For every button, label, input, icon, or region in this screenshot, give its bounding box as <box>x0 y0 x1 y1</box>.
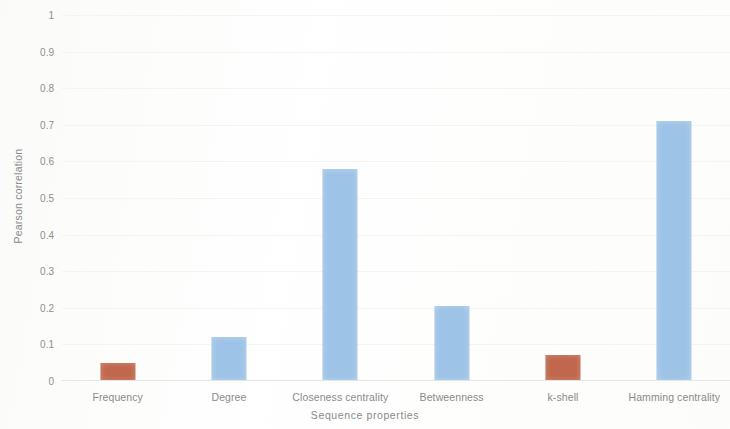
bar[interactable] <box>211 337 246 381</box>
y-axis-tick-label: 0.2 <box>40 302 54 313</box>
x-axis-tick-label: Closeness centrality <box>292 391 388 403</box>
y-axis-tick-label: 0.8 <box>40 83 54 94</box>
y-axis-tick-label: 0 <box>48 376 54 387</box>
y-axis-title: Pearson correlation <box>12 126 24 266</box>
x-axis-tick-label: k-shell <box>547 391 578 403</box>
bar-slot: Hamming centrality <box>619 15 730 381</box>
x-axis-baseline <box>62 380 730 381</box>
bar-slot: Degree <box>173 15 284 381</box>
y-axis-tick-label: 0.4 <box>40 229 54 240</box>
bar[interactable] <box>657 121 692 381</box>
x-axis-tick-label: Hamming centrality <box>628 391 720 403</box>
x-axis-title: Sequence properties <box>0 409 730 421</box>
y-axis-tick-label: 0.3 <box>40 266 54 277</box>
bar-slot: Frequency <box>62 15 173 381</box>
bar[interactable] <box>434 306 469 381</box>
bar[interactable] <box>545 355 580 381</box>
plot-area: 10.90.80.70.60.50.40.30.20.10 FrequencyD… <box>62 15 730 381</box>
bar-slot: Betweenness <box>396 15 507 381</box>
y-axis-tick-label: 0.6 <box>40 156 54 167</box>
y-axis-tick-label: 0.1 <box>40 339 54 350</box>
y-axis-tick-label: 0.9 <box>40 46 54 57</box>
bar-chart-figure: Pearson correlation 10.90.80.70.60.50.40… <box>0 0 730 429</box>
x-axis-tick-label: Betweenness <box>420 391 484 403</box>
bar-slot: k-shell <box>507 15 618 381</box>
bar[interactable] <box>323 169 358 381</box>
x-axis-tick-label: Degree <box>211 391 246 403</box>
y-axis-tick-label: 1 <box>48 10 54 21</box>
y-axis-tick-label: 0.7 <box>40 119 54 130</box>
y-axis-tick-label: 0.5 <box>40 193 54 204</box>
bar-slot: Closeness centrality <box>285 15 396 381</box>
x-axis-tick-label: Frequency <box>92 391 143 403</box>
bar[interactable] <box>100 363 135 381</box>
